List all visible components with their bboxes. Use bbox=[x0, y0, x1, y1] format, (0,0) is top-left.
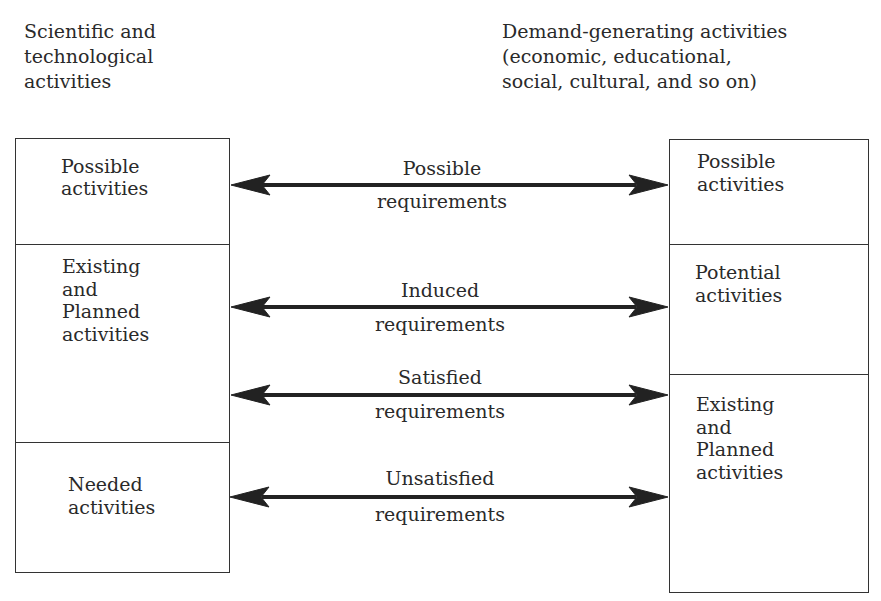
arrow-label-bottom: requirements bbox=[292, 190, 592, 212]
arrow-label-top: Satisfied bbox=[290, 366, 590, 388]
arrow-label-bottom: requirements bbox=[290, 503, 590, 525]
arrow-label-top: Possible bbox=[292, 157, 592, 179]
arrow-label-top: Unsatisfied bbox=[290, 467, 590, 489]
arrow-label-bottom: requirements bbox=[290, 400, 590, 422]
arrow-label-top: Induced bbox=[290, 279, 590, 301]
arrow-label-bottom: requirements bbox=[290, 313, 590, 335]
